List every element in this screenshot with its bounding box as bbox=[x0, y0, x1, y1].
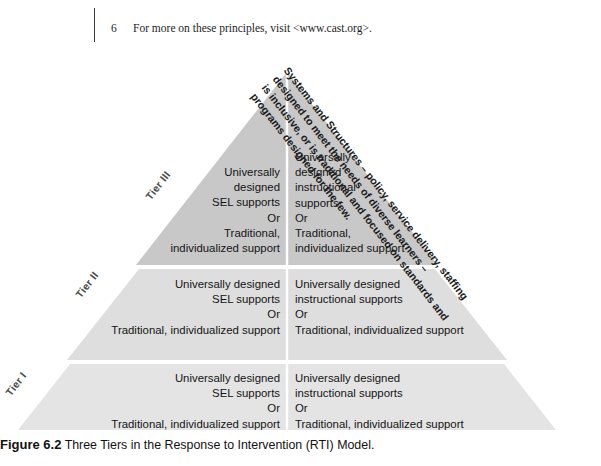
figure-caption-label: Figure 6.2 bbox=[0, 437, 61, 452]
footnote-body: For more on these principles, visit <www… bbox=[133, 22, 372, 34]
tier-1-right-column: Universally designed instructional suppo… bbox=[295, 371, 510, 432]
figure-caption: Figure 6.2 Three Tiers in the Response t… bbox=[0, 437, 601, 452]
tier-1-left-column: Universally designed SEL supports Or Tra… bbox=[100, 371, 280, 432]
tier-2-left-column: Universally designed SEL supports Or Tra… bbox=[110, 277, 280, 338]
footnote-text: 6 For more on these principles, visit <w… bbox=[111, 8, 372, 34]
footnote-block: 6 For more on these principles, visit <w… bbox=[94, 8, 514, 44]
footnote-number: 6 bbox=[111, 22, 133, 34]
figure-caption-text: Three Tiers in the Response to Intervent… bbox=[65, 438, 375, 452]
rti-pyramid-figure: Universally designed SEL supports Or Tra… bbox=[0, 46, 601, 434]
footnote-rule bbox=[94, 8, 95, 42]
